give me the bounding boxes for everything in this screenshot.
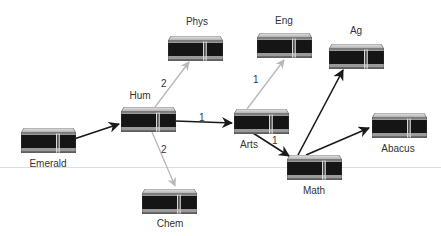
- edge-emerald-to-hum: [74, 124, 119, 139]
- node-label-phys: Phys: [186, 16, 208, 28]
- edge-weight-arts-math: 1: [272, 135, 278, 147]
- edge-weight-hum-chem: 2: [161, 144, 167, 156]
- node-label-math: Math: [303, 185, 325, 197]
- server-icon: [257, 33, 312, 58]
- node-chem[interactable]: [142, 189, 197, 214]
- node-label-arts: Arts: [240, 139, 258, 151]
- network-diagram: EmeraldHumPhysChemEngArtsAgMathAbacus221…: [0, 0, 441, 236]
- server-icon: [329, 44, 384, 69]
- edge-weight-arts-eng: 1: [253, 74, 259, 86]
- node-ag[interactable]: [329, 44, 384, 69]
- node-math[interactable]: [287, 155, 342, 180]
- node-abacus[interactable]: [372, 113, 427, 138]
- node-label-abacus: Abacus: [381, 143, 414, 155]
- server-icon: [168, 36, 223, 61]
- node-eng[interactable]: [257, 33, 312, 58]
- server-icon: [372, 113, 427, 138]
- server-icon: [287, 155, 342, 180]
- node-label-eng: Eng: [275, 15, 293, 27]
- node-label-hum: Hum: [129, 90, 150, 102]
- node-label-emerald: Emerald: [29, 158, 66, 170]
- server-icon: [21, 128, 76, 153]
- node-arts[interactable]: [234, 109, 289, 134]
- edge-math-to-abacus: [306, 128, 369, 155]
- edge-hum-to-chem: [152, 132, 175, 186]
- edge-weight-hum-phys: 2: [161, 78, 167, 90]
- node-label-chem: Chem: [157, 218, 184, 230]
- server-icon: [121, 107, 176, 132]
- node-hum[interactable]: [121, 107, 176, 132]
- node-label-ag: Ag: [350, 25, 362, 37]
- edge-arts-to-math: [253, 133, 289, 156]
- server-icon: [142, 189, 197, 214]
- edge-weight-hum-arts: 1: [199, 112, 205, 124]
- node-phys[interactable]: [168, 36, 223, 61]
- server-icon: [234, 109, 289, 134]
- node-emerald[interactable]: [21, 128, 76, 153]
